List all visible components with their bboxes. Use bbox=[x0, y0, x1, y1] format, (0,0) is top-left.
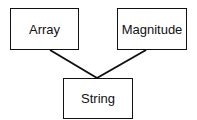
edge-string-magnitude bbox=[97, 50, 146, 78]
node-magnitude: Magnitude bbox=[117, 8, 187, 50]
node-magnitude-label: Magnitude bbox=[122, 22, 183, 37]
node-string-label: String bbox=[81, 91, 115, 106]
node-array: Array bbox=[10, 8, 79, 50]
edge-string-array bbox=[50, 50, 97, 78]
node-string: String bbox=[63, 78, 133, 119]
node-array-label: Array bbox=[29, 22, 60, 37]
